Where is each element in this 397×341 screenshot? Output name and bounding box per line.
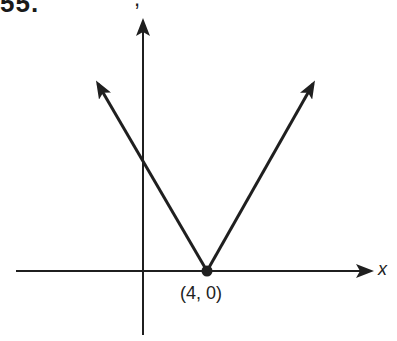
vertex-label: (4, 0)	[180, 283, 222, 304]
left-branch-line	[98, 84, 207, 271]
vertex-point	[202, 266, 213, 277]
right-branch-line	[207, 84, 313, 271]
x-axis-label: x	[378, 259, 387, 280]
